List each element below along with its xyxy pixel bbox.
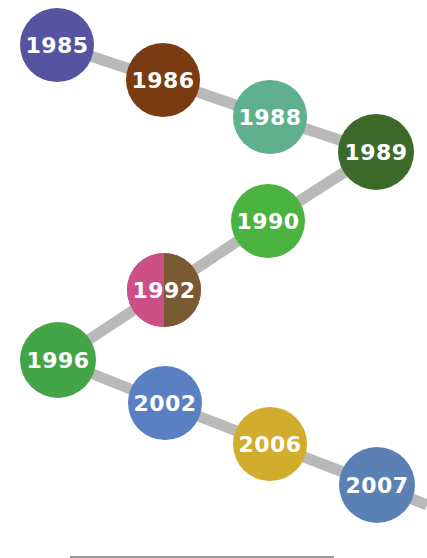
timeline-node-1988: 1988 [233, 80, 307, 154]
timeline-node-2007: 2007 [339, 447, 415, 523]
timeline-node-2002: 2002 [128, 366, 202, 440]
node-year-label: 1990 [236, 209, 299, 234]
node-year-label: 1988 [238, 105, 301, 130]
node-year-label: 2006 [238, 432, 301, 457]
timeline-node-1996: 1996 [20, 322, 96, 398]
timeline-node-1990: 1990 [231, 184, 305, 258]
node-year-label: 1985 [25, 33, 88, 58]
node-year-label: 1996 [26, 348, 89, 373]
node-year-label: 1989 [344, 140, 407, 165]
timeline-node-1985: 1985 [20, 8, 94, 82]
node-year-label: 1992 [132, 278, 195, 303]
timeline-node-2006: 2006 [233, 407, 307, 481]
node-year-label: 2002 [133, 391, 196, 416]
node-year-label: 1986 [131, 68, 194, 93]
timeline-node-1989: 1989 [338, 114, 414, 190]
node-year-label: 2007 [345, 473, 408, 498]
timeline-node-1992: 1992 [127, 253, 201, 327]
timeline-node-1986: 1986 [126, 43, 200, 117]
